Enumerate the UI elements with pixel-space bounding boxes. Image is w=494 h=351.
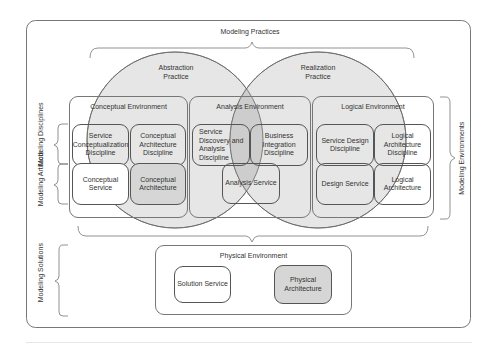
service-design-discipline: Service Design Discipline	[316, 124, 374, 166]
service-discovery-analysis-discipline: Service Discovery and Analysis Disciplin…	[192, 124, 250, 166]
physical-architecture: Physical Architecture	[274, 265, 332, 304]
physical-environment-label: Physical Environment	[156, 252, 351, 261]
modeling-practices-title: Modeling Practices	[200, 28, 300, 37]
conceptual-environment-label: Conceptual Environment	[70, 103, 187, 112]
service-conceptualization-discipline: Service Conceptualization Discipline	[72, 124, 129, 166]
modeling-environments-label: Modeling Environments	[458, 108, 467, 208]
conceptual-architecture-discipline: Conceptual Architecture Discipline	[130, 124, 186, 166]
realization-practice-label: Realization Practice	[292, 64, 344, 81]
conceptual-service: Conceptual Service	[72, 163, 129, 205]
logical-architecture: Logical Architecture	[374, 163, 431, 205]
design-service: Design Service	[316, 163, 374, 205]
bottom-divider	[26, 342, 472, 343]
abstraction-practice-label: Abstraction Practice	[150, 64, 202, 81]
modeling-artifacts-label: Modeling Artifacts	[37, 160, 46, 206]
logical-architecture-discipline: Logical Architecture Discipline	[374, 124, 431, 166]
modeling-solutions-label: Modeling Solutions	[37, 256, 46, 302]
business-integration-discipline: Business Integration Discipline	[250, 124, 308, 166]
solution-service: Solution Service	[174, 266, 231, 303]
logical-environment-label: Logical Environment	[313, 103, 433, 112]
analysis-service: Analysis Service	[222, 163, 280, 204]
analysis-environment-label: Analysis Environment	[190, 103, 310, 112]
conceptual-architecture: Conceptual Architecture	[130, 163, 186, 205]
